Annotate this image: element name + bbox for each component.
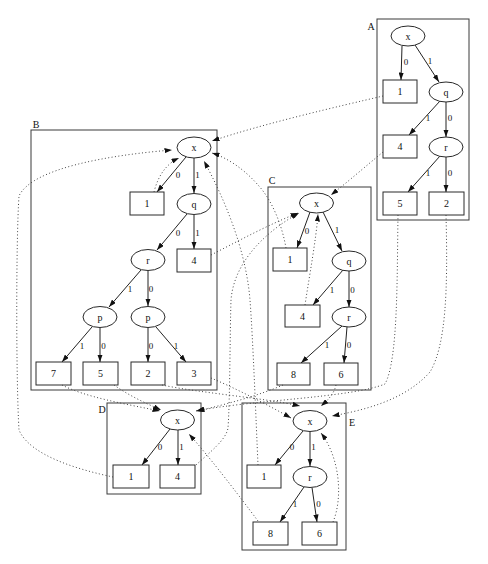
edge-label: 0 — [404, 57, 409, 67]
edge-label: 1 — [174, 341, 179, 351]
node-c-r: r — [332, 307, 366, 327]
cluster-a-label: A — [367, 21, 375, 32]
edge-label: 1 — [311, 442, 316, 452]
node-label: q — [444, 87, 449, 98]
node-label: 2 — [146, 368, 151, 379]
node-b-4: 4 — [177, 249, 211, 272]
node-e-1: 1 — [247, 465, 281, 488]
node-b-1: 1 — [130, 192, 164, 215]
decision-diagram-canvas: A 0 1 1 0 1 0 x 1 q 4 r — [0, 0, 488, 564]
cluster-c-label: C — [269, 175, 276, 186]
node-a-4: 4 — [383, 135, 417, 158]
node-label: x — [175, 415, 180, 426]
edge-label: 0 — [290, 442, 295, 452]
edge-label: 1 — [426, 168, 431, 178]
edge-label: 1 — [335, 225, 340, 235]
node-label: 5 — [398, 198, 403, 209]
node-label: x — [308, 416, 313, 427]
node-label: 1 — [145, 198, 150, 209]
edge-label: 0 — [347, 340, 352, 350]
node-label: q — [192, 199, 197, 210]
node-label: 8 — [291, 369, 296, 380]
edge-label: 0 — [158, 442, 163, 452]
node-c-6: 6 — [324, 363, 358, 385]
node-d-4: 4 — [160, 465, 195, 488]
edge-label: 0 — [176, 170, 181, 180]
node-c-4: 4 — [285, 305, 320, 327]
cluster-d-label: D — [98, 404, 105, 415]
node-a-2: 2 — [429, 192, 464, 215]
node-c-q: q — [332, 251, 366, 271]
edge-label: 1 — [426, 113, 431, 123]
edge-label: 0 — [350, 285, 355, 295]
edge-label: 0 — [176, 228, 181, 238]
node-e-8: 8 — [253, 522, 288, 545]
node-b-5: 5 — [83, 362, 118, 385]
edge-label: 0 — [448, 168, 453, 178]
node-label: 2 — [444, 198, 449, 209]
node-b-q: q — [177, 194, 211, 215]
edge-label: 0 — [101, 341, 106, 351]
node-label: p — [146, 312, 151, 323]
node-label: q — [347, 256, 352, 267]
node-e-r: r — [293, 467, 327, 488]
node-label: 1 — [129, 471, 134, 482]
node-label: 8 — [268, 528, 273, 539]
node-label: 4 — [175, 471, 180, 482]
edge-label: 1 — [195, 170, 200, 180]
node-label: 4 — [192, 255, 197, 266]
edge-label: 0 — [149, 284, 154, 294]
node-label: 5 — [98, 368, 103, 379]
node-label: 1 — [398, 86, 403, 97]
node-a-5: 5 — [383, 192, 417, 215]
node-d-1: 1 — [113, 465, 149, 488]
node-a-x: x — [391, 26, 425, 46]
node-label: 6 — [339, 369, 344, 380]
node-c-8: 8 — [277, 363, 310, 385]
node-e-x: x — [293, 411, 327, 432]
node-c-x: x — [300, 193, 334, 213]
node-a-r: r — [429, 137, 463, 157]
edge-label: 0 — [305, 226, 310, 236]
cluster-b-label: B — [33, 119, 40, 130]
edge-label: 0 — [149, 341, 154, 351]
node-label: p — [98, 312, 103, 323]
cluster-e-label: E — [349, 417, 355, 428]
node-b-3: 3 — [177, 362, 211, 385]
node-b-p-left: p — [83, 307, 117, 328]
node-label: 4 — [398, 141, 403, 152]
node-b-r: r — [131, 250, 165, 271]
edge-label: 0 — [448, 113, 453, 123]
node-label: x — [406, 31, 411, 42]
node-label: 4 — [300, 311, 305, 322]
edge-label: 1 — [330, 285, 335, 295]
node-label: 6 — [317, 528, 322, 539]
edge-label: 1 — [195, 228, 200, 238]
node-label: x — [314, 198, 319, 209]
edge-label: 1 — [428, 56, 433, 66]
edge-label: 1 — [325, 340, 330, 350]
node-label: x — [192, 142, 197, 153]
node-label: 7 — [51, 368, 56, 379]
node-c-1: 1 — [273, 248, 307, 271]
edge-label: 1 — [293, 499, 298, 509]
node-label: 1 — [288, 254, 293, 265]
node-a-1: 1 — [383, 80, 417, 103]
edge-label: 1 — [179, 442, 184, 452]
node-a-q: q — [429, 82, 463, 102]
edge-label: 1 — [128, 284, 133, 294]
node-b-2: 2 — [131, 362, 165, 385]
node-d-x: x — [161, 410, 195, 430]
node-b-7: 7 — [36, 362, 71, 385]
node-label: 1 — [262, 471, 267, 482]
node-label: 3 — [192, 368, 197, 379]
node-b-p-right: p — [131, 307, 165, 328]
node-e-6: 6 — [302, 522, 337, 545]
edge-label: 1 — [80, 341, 85, 351]
edge-label: 0 — [316, 499, 321, 509]
node-b-x: x — [177, 137, 211, 158]
